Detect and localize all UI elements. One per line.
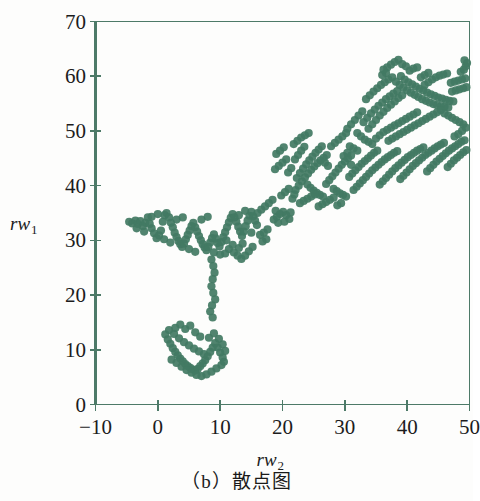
- scatter-point: [284, 168, 292, 176]
- scatter-point: [253, 221, 261, 229]
- scatter-point: [449, 97, 457, 105]
- scatter-point: [215, 335, 223, 343]
- scatter-point: [209, 313, 217, 321]
- x-tick-label: 50: [459, 417, 480, 438]
- y-tick-label: 0: [34, 394, 86, 415]
- scatter-point: [280, 143, 288, 151]
- scatter-point: [362, 95, 370, 103]
- scatter-point: [358, 107, 366, 115]
- scatter-point: [217, 361, 225, 369]
- scatter-point: [393, 147, 401, 155]
- scatter-point: [353, 147, 361, 155]
- scatter-point: [280, 218, 288, 226]
- scatter-point: [272, 207, 280, 215]
- scatter-point: [253, 209, 261, 217]
- scatter-point: [305, 129, 313, 137]
- y-tick-label: 20: [34, 285, 86, 306]
- scatter-point: [179, 213, 187, 221]
- scatter-point: [196, 333, 204, 341]
- x-axis-title-text: rw: [257, 449, 277, 470]
- scatter-point: [191, 248, 199, 256]
- x-axis-title: rw2: [257, 450, 285, 472]
- scatter-point: [239, 240, 247, 248]
- scatter-point: [171, 324, 179, 332]
- scatter-point: [460, 56, 468, 64]
- scatter-point: [133, 224, 141, 232]
- scatter-point: [462, 83, 470, 91]
- scatter-point: [424, 69, 432, 77]
- x-tick-label: −10: [79, 417, 112, 438]
- y-tick-label: 40: [34, 175, 86, 196]
- scatter-point: [271, 165, 279, 173]
- scatter-point: [200, 350, 208, 358]
- scatter-point: [154, 210, 162, 218]
- scatter-point: [337, 199, 345, 207]
- scatter-point: [324, 162, 332, 170]
- scatter-point: [440, 139, 448, 147]
- scatter-point: [342, 192, 350, 200]
- scatter-point: [402, 62, 410, 70]
- scatter-point: [379, 66, 387, 74]
- scatter-point: [450, 132, 458, 140]
- scatter-point: [323, 151, 331, 159]
- scatter-point: [241, 207, 249, 215]
- scatter-point: [209, 275, 217, 283]
- scatter-point: [311, 190, 319, 198]
- scatter-point: [443, 69, 451, 77]
- scatter-point: [343, 149, 351, 157]
- scatter-point: [204, 213, 212, 221]
- y-tick-label: 30: [34, 230, 86, 251]
- scatter-point: [221, 249, 229, 257]
- scatter-point: [186, 322, 194, 330]
- scatter-point: [413, 108, 421, 116]
- figure-caption: （b）散点图: [0, 472, 473, 493]
- scatter-point: [263, 225, 271, 233]
- scatter-point: [166, 238, 174, 246]
- x-tick-label: 20: [272, 417, 293, 438]
- scatter-point: [285, 185, 293, 193]
- scatter-point: [287, 208, 295, 216]
- scatter-point: [327, 142, 335, 150]
- x-tick-label: 30: [334, 417, 355, 438]
- x-tick-label: 0: [153, 417, 164, 438]
- scatter-point: [318, 142, 326, 150]
- scatter-point: [342, 129, 350, 137]
- x-tick-label: 40: [397, 417, 418, 438]
- data-points: [125, 56, 471, 380]
- scatter-point: [247, 229, 255, 237]
- x-tick-label: 10: [210, 417, 231, 438]
- scatter-point: [460, 136, 468, 144]
- y-tick-label: 50: [34, 120, 86, 141]
- scatter-point: [462, 146, 470, 154]
- scatter-point: [288, 195, 296, 203]
- scatter-point: [413, 63, 421, 71]
- scatter-point: [140, 228, 148, 236]
- scatter-point: [347, 161, 355, 169]
- scatter-point: [373, 147, 381, 155]
- y-tick-label: 70: [34, 11, 86, 32]
- scatter-point: [248, 243, 256, 251]
- y-axis-title-text: rw: [10, 213, 30, 234]
- y-tick-label: 10: [34, 339, 86, 360]
- scatter-point: [421, 81, 429, 89]
- scatter-point: [262, 235, 270, 243]
- scatter-point: [300, 143, 308, 151]
- y-axis-title-subscript: 1: [30, 222, 38, 237]
- y-axis-title: rw1: [10, 214, 38, 236]
- scatter-point: [330, 194, 338, 202]
- scatter-point: [282, 155, 290, 163]
- y-tick-label: 60: [34, 66, 86, 87]
- scatter-point: [157, 226, 165, 234]
